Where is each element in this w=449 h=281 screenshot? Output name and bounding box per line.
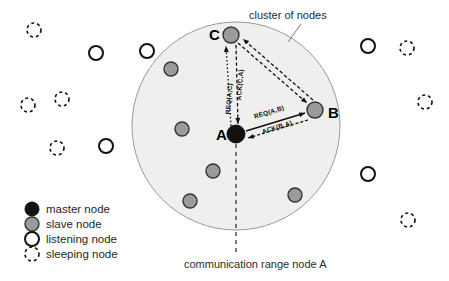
legend-marker-sleeping: [25, 247, 39, 261]
master-node-a: [227, 125, 245, 143]
slave-node-c: [223, 27, 239, 43]
listening-node: [140, 44, 154, 58]
slave-node: [175, 122, 189, 136]
node-label-a: A: [216, 126, 227, 143]
sleeping-node: [21, 98, 35, 112]
legend-marker-listening: [25, 232, 39, 246]
cluster-of-nodes-label: cluster of nodes: [249, 9, 327, 21]
sleeping-node: [50, 141, 64, 155]
sleeping-node: [55, 92, 69, 106]
sleeping-node: [401, 213, 415, 227]
node-label-c: C: [209, 26, 220, 43]
sleeping-node: [418, 95, 432, 109]
listening-node: [361, 39, 375, 53]
legend-marker-slave: [25, 217, 39, 231]
slave-node: [288, 188, 302, 202]
legend-label-listening: listening node: [46, 233, 117, 245]
cluster-leader-line: [288, 24, 301, 42]
slave-node-b: [307, 102, 323, 118]
legend-label-sleeping: sleeping node: [46, 248, 118, 260]
legend-label-slave: slave node: [46, 218, 102, 230]
sleeping-node: [400, 41, 414, 55]
communication-range-label: communication range node A: [184, 258, 326, 270]
node-label-b: B: [328, 104, 339, 121]
slave-node: [183, 194, 197, 208]
slave-node: [164, 62, 178, 76]
listening-node: [89, 46, 103, 60]
legend-marker-master: [25, 202, 39, 216]
listening-node: [99, 139, 113, 153]
diagram-canvas: A B C REQ(A,B) ACK(B,A) REQ(A,C) ACK(C,A…: [0, 0, 449, 281]
slave-node: [206, 164, 220, 178]
sleeping-node: [27, 23, 41, 37]
listening-node: [361, 167, 375, 181]
legend-label-master: master node: [46, 203, 110, 215]
